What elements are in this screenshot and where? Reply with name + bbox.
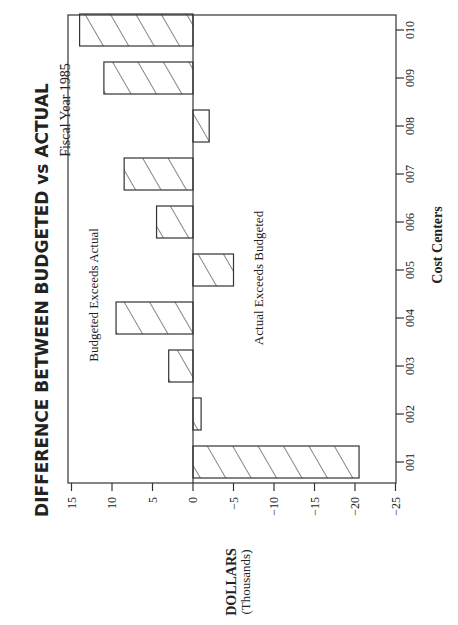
value-tick-label: −20	[348, 497, 362, 516]
category-tick-label: 010	[403, 21, 417, 39]
chart-title: DIFFERENCE BETWEEN BUDGETED vs ACTUAL	[32, 83, 52, 517]
bar-002	[193, 398, 201, 430]
bar-009	[104, 62, 193, 94]
value-tick-label: −5	[227, 497, 241, 510]
bar-008	[193, 110, 209, 142]
bar-005	[193, 254, 234, 286]
bar-chart: DIFFERENCE BETWEEN BUDGETED vs ACTUAL Fi…	[0, 0, 458, 625]
category-tick-label: 008	[403, 117, 417, 135]
bar-001	[193, 446, 359, 478]
annotation-budget-exceeds: Budgeted Exceeds Actual	[86, 228, 101, 362]
chart-subtitle: Fiscal Year 1985	[58, 63, 73, 157]
value-tick-label: −15	[308, 497, 322, 516]
bar-006	[157, 206, 193, 238]
value-tick-label: −10	[267, 497, 281, 516]
category-tick-label: 005	[403, 261, 417, 279]
bar-007	[124, 158, 193, 190]
value-axis: 151050−5−10−15−20−25	[65, 483, 403, 516]
category-tick-label: 009	[403, 69, 417, 87]
category-tick-label: 007	[403, 165, 417, 183]
value-axis-subtitle: (Thousands)	[238, 550, 253, 615]
value-axis-title: DOLLARS	[224, 548, 239, 616]
category-axis: 001002003004005006007008009010	[396, 21, 417, 471]
value-tick-label: 15	[65, 497, 79, 509]
category-tick-label: 002	[403, 405, 417, 423]
category-tick-label: 001	[403, 453, 417, 471]
category-axis-title: Cost Centers	[430, 206, 445, 284]
category-tick-label: 004	[403, 309, 417, 327]
value-tick-label: 5	[146, 497, 160, 503]
annotation-actual-exceeds: Actual Exceeds Budgeted	[251, 210, 266, 345]
value-tick-label: −25	[389, 497, 403, 516]
bars-group	[80, 14, 359, 478]
category-tick-label: 003	[403, 357, 417, 375]
value-tick-label: 0	[186, 497, 200, 503]
value-tick-label: 10	[105, 497, 119, 509]
category-tick-label: 006	[403, 213, 417, 231]
bar-004	[116, 302, 193, 334]
bar-010	[80, 14, 193, 46]
bar-003	[169, 350, 193, 382]
